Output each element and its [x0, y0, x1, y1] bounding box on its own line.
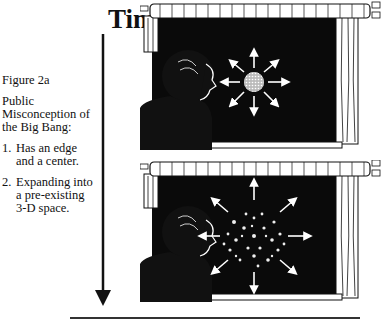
curtain-right-icon [336, 174, 358, 298]
panel-later-universe [140, 160, 386, 310]
person-silhouette-icon [140, 206, 216, 302]
curtain-left-icon [144, 174, 158, 208]
bottom-divider [70, 317, 360, 319]
curtain-left-icon [144, 16, 158, 52]
panel-early-universe [140, 0, 386, 160]
valance-icon [140, 2, 380, 18]
curtain-right-icon [336, 16, 358, 144]
valance-icon [140, 160, 380, 176]
dense-universe-icon [244, 72, 264, 92]
